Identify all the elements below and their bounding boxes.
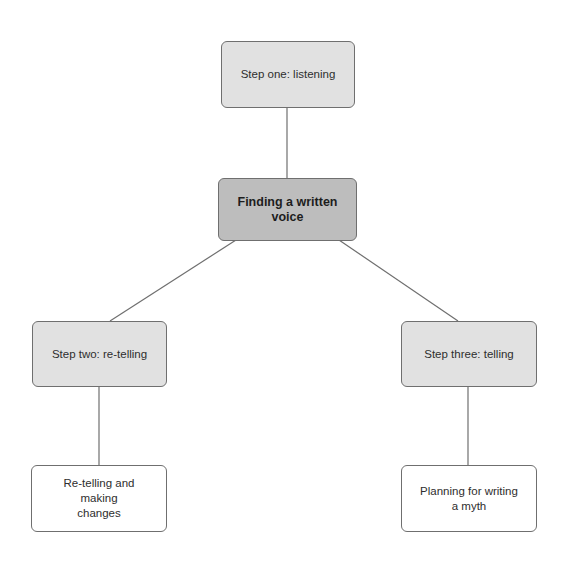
- node-step-three-label: Step three: telling: [424, 347, 514, 362]
- node-root: Finding a written voice: [218, 178, 357, 241]
- node-step-one: Step one: listening: [221, 41, 355, 108]
- node-leaf-three-label: Planning for writing a myth: [418, 484, 520, 514]
- node-step-two-label: Step two: re-telling: [52, 347, 147, 362]
- node-step-one-label: Step one: listening: [241, 67, 336, 82]
- node-leaf-two: Re-telling and making changes: [31, 465, 167, 532]
- edge-root-step-three: [339, 240, 458, 321]
- node-leaf-two-label: Re-telling and making changes: [62, 476, 136, 521]
- edge-root-step-two: [110, 240, 236, 321]
- node-root-label: Finding a written voice: [225, 195, 350, 225]
- node-leaf-three: Planning for writing a myth: [401, 465, 537, 532]
- node-step-three: Step three: telling: [401, 321, 537, 387]
- node-step-two: Step two: re-telling: [32, 321, 167, 387]
